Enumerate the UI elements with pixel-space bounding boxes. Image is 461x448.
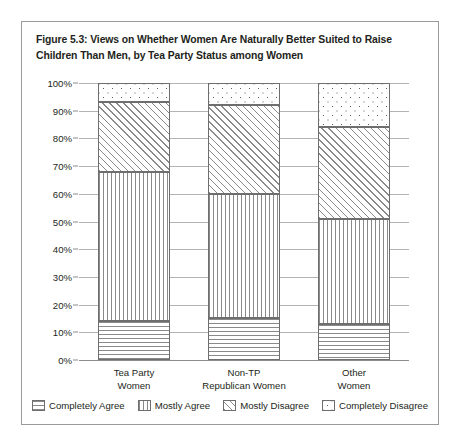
figure-container: Figure 5.3: Views on Whether Women Are N… [21, 21, 439, 425]
legend-label: Completely Agree [49, 400, 125, 411]
y-axis-tick-label: 100% [47, 78, 72, 89]
bar-segment-mostly-disagree[interactable] [98, 102, 170, 171]
y-axis-tick-label: 0% [58, 355, 72, 366]
bar-non-tp-republican-women[interactable]: Non-TPRepublican Women [208, 83, 280, 360]
legend-swatch-diagonal-hatch-icon [223, 400, 236, 411]
bar-tea-party-women[interactable]: Tea PartyWomen [98, 83, 170, 360]
bar-segment-mostly-agree[interactable] [318, 219, 390, 324]
bar-segment-mostly-agree[interactable] [208, 194, 280, 319]
legend-item-mostly-disagree[interactable]: Mostly Disagree [223, 400, 309, 411]
bar-segment-completely-agree[interactable] [98, 321, 170, 360]
y-axis-tick-label: 70% [53, 161, 72, 172]
y-axis-tick-label: 80% [53, 133, 72, 144]
y-axis-tick-label: 20% [53, 299, 72, 310]
y-tick-mark-90 [73, 110, 78, 111]
legend-label: Mostly Disagree [240, 400, 309, 411]
bar-segment-completely-agree[interactable] [318, 324, 390, 360]
x-axis-label-line-2: Women [279, 380, 429, 393]
y-axis-tick-label: 60% [53, 188, 72, 199]
y-axis-tick-label: 50% [53, 216, 72, 227]
chart-legend: Completely AgreeMostly AgreeMostly Disag… [22, 394, 438, 416]
chart-plot-area: 0%10%20%30%40%50%60%70%80%90%100% Tea Pa… [79, 83, 409, 360]
legend-label: Completely Disagree [339, 400, 428, 411]
bar-other-women[interactable]: OtherWomen [318, 83, 390, 360]
y-tick-mark-30 [73, 276, 78, 277]
bar-segment-completely-disagree[interactable] [208, 83, 280, 105]
y-tick-mark-80 [73, 138, 78, 139]
bar-segment-completely-disagree[interactable] [98, 83, 170, 102]
y-tick-mark-70 [73, 166, 78, 167]
y-tick-mark-60 [73, 193, 78, 194]
y-axis-tick-label: 90% [53, 105, 72, 116]
legend-item-completely-disagree[interactable]: Completely Disagree [322, 400, 428, 411]
legend-swatch-dots-icon [322, 400, 335, 411]
bar-segment-mostly-disagree[interactable] [318, 127, 390, 218]
y-axis-tick-label: 40% [53, 244, 72, 255]
legend-item-mostly-agree[interactable]: Mostly Agree [138, 400, 210, 411]
y-tick-mark-100 [73, 83, 78, 84]
bar-segment-mostly-agree[interactable] [98, 172, 170, 322]
y-tick-mark-0 [73, 360, 78, 361]
legend-swatch-horizontal-lines-icon [32, 400, 45, 411]
legend-swatch-vertical-lines-icon [138, 400, 151, 411]
legend-label: Mostly Agree [155, 400, 210, 411]
y-tick-mark-40 [73, 249, 78, 250]
bar-segment-completely-agree[interactable] [208, 318, 280, 360]
bar-segment-completely-disagree[interactable] [318, 83, 390, 127]
x-axis-label-line-1: Other [279, 367, 429, 380]
y-axis-tick-label: 10% [53, 327, 72, 338]
figure-title: Figure 5.3: Views on Whether Women Are N… [36, 32, 426, 63]
gridline-0 [79, 360, 409, 361]
chart-plot-wrapper: 0%10%20%30%40%50%60%70%80%90%100% Tea Pa… [22, 77, 440, 377]
y-tick-mark-20 [73, 304, 78, 305]
y-axis-tick-label: 30% [53, 271, 72, 282]
y-tick-mark-10 [73, 332, 78, 333]
bar-segment-mostly-disagree[interactable] [208, 105, 280, 194]
y-tick-mark-50 [73, 221, 78, 222]
x-axis-category-label: OtherWomen [279, 367, 429, 392]
legend-item-completely-agree[interactable]: Completely Agree [32, 400, 125, 411]
